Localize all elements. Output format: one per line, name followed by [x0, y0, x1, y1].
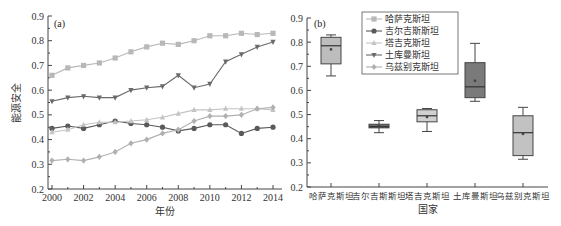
x-axis-title: 年份: [155, 205, 175, 217]
iqr-box: [513, 116, 533, 156]
y-axis-title: 能源安全: [10, 83, 22, 123]
data-point-marker: [49, 99, 54, 104]
data-point-marker: [144, 136, 149, 142]
mean-marker: [330, 48, 332, 50]
data-point-marker: [176, 73, 181, 78]
data-point-marker: [207, 113, 212, 119]
x-tick-label: 2008: [168, 192, 188, 203]
panel-label-b: (b): [314, 18, 326, 30]
data-point-marker: [223, 122, 228, 127]
x-tick-label: 2000: [42, 192, 62, 203]
y-tick-label: 0.9: [291, 13, 304, 24]
x-tick-label: 2010: [200, 192, 220, 203]
data-point-marker: [128, 140, 133, 146]
data-point-marker: [144, 122, 149, 127]
data-point-marker: [81, 63, 86, 68]
x-tick-label: 2006: [137, 192, 157, 203]
x-tick-label: 2002: [74, 192, 94, 203]
box-4: [513, 107, 533, 159]
category-label: 乌兹别克斯坦: [496, 191, 550, 201]
legend-label: 土库曼斯坦: [385, 49, 430, 60]
mean-marker: [474, 80, 476, 82]
legend-label: 哈萨克斯坦: [385, 13, 430, 24]
data-point-marker: [207, 122, 212, 127]
box-2: [417, 109, 437, 132]
data-point-marker: [113, 149, 118, 155]
x-tick-label: 2004: [105, 192, 125, 203]
legend-label: 乌兹别克斯坦: [385, 61, 439, 72]
data-point-marker: [239, 31, 244, 36]
mean-marker: [426, 116, 428, 118]
y-tick-label: 0.6: [291, 85, 304, 96]
y-tick-label: 0.4: [32, 134, 45, 145]
figure: 0.20.30.40.50.60.70.80.92000200220042006…: [0, 0, 561, 226]
legend-marker-icon: [371, 16, 376, 21]
category-label: 哈萨克斯坦: [309, 191, 354, 201]
y-tick-label: 0.3: [32, 159, 45, 170]
box-plot-panel-b: 0.20.30.40.50.60.70.80.9哈萨克斯坦吉尔吉斯斯坦塔吉克斯坦…: [291, 12, 551, 215]
x-tick-label: 2012: [231, 192, 251, 203]
series-line: [52, 42, 273, 101]
y-tick-label: 0.5: [32, 109, 45, 120]
data-point-marker: [270, 31, 275, 36]
data-point-marker: [160, 130, 165, 136]
y-tick-label: 0.7: [32, 60, 45, 71]
data-point-marker: [223, 33, 228, 38]
y-tick-label: 0.3: [291, 157, 304, 168]
data-point-marker: [223, 113, 228, 119]
legend-label: 塔吉克斯坦: [385, 37, 430, 48]
y-tick-label: 0.8: [32, 35, 45, 46]
x-tick-label: 2014: [263, 192, 283, 203]
y-tick-label: 0.6: [32, 85, 45, 96]
y-tick-label: 0.8: [291, 37, 304, 48]
data-point-marker: [176, 42, 181, 47]
box-0: [321, 35, 341, 76]
y-tick-label: 0.5: [291, 109, 304, 120]
legend-marker-icon: [371, 28, 376, 33]
data-point-marker: [191, 118, 196, 124]
data-point-marker: [49, 157, 54, 163]
y-tick-label: 0.2: [291, 182, 304, 193]
data-point-marker: [191, 86, 196, 91]
mean-marker: [522, 133, 524, 135]
data-point-marker: [239, 131, 244, 136]
category-label: 土库曼斯坦: [453, 191, 498, 201]
data-point-marker: [49, 73, 54, 78]
data-point-marker: [191, 38, 196, 43]
y-tick-label: 0.9: [32, 11, 45, 22]
data-point-marker: [160, 125, 165, 130]
category-label: 吉尔吉斯斯坦: [352, 191, 406, 201]
data-point-marker: [255, 32, 260, 37]
data-point-marker: [270, 125, 275, 130]
data-point-marker: [191, 126, 196, 131]
data-point-marker: [65, 65, 70, 70]
data-point-marker: [97, 154, 102, 160]
data-point-marker: [128, 49, 133, 54]
y-tick-label: 0.7: [291, 61, 304, 72]
data-point-marker: [97, 60, 102, 65]
series-line: [52, 33, 273, 75]
data-point-marker: [65, 156, 70, 162]
y-tick-label: 0.4: [291, 133, 304, 144]
series-3: [49, 40, 275, 105]
data-point-marker: [144, 44, 149, 49]
x-axis-title: 国家: [418, 203, 438, 215]
data-point-marker: [239, 112, 244, 118]
data-point-marker: [207, 33, 212, 38]
category-label: 塔吉克斯坦: [405, 191, 450, 201]
data-point-marker: [160, 41, 165, 46]
data-point-marker: [81, 157, 86, 163]
legend: 哈萨克斯坦吉尔吉斯斯坦塔吉克斯坦土库曼斯坦乌兹别克斯坦: [362, 12, 458, 74]
box-1: [369, 121, 389, 133]
line-chart-panel-a: 0.20.30.40.50.60.70.80.92000200220042006…: [10, 11, 283, 218]
legend-label: 吉尔吉斯斯坦: [385, 25, 439, 36]
mean-marker: [378, 125, 380, 127]
data-point-marker: [255, 126, 260, 131]
data-point-marker: [255, 106, 260, 112]
box-3: [465, 43, 485, 101]
panel-label-a: (a): [54, 18, 65, 30]
iqr-box: [321, 37, 341, 64]
data-point-marker: [113, 55, 118, 60]
